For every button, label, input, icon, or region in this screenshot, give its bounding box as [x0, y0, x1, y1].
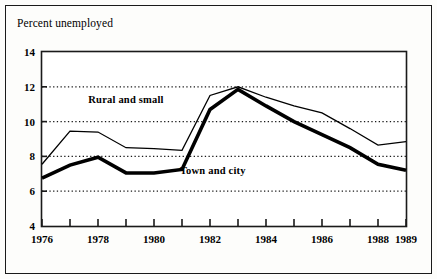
chart-plot: 468101214 197619781980198219841986198819… [0, 0, 437, 279]
x-tick-label-1976: 1976 [31, 233, 54, 245]
y-tick-label-14: 14 [24, 46, 36, 58]
plot-frame [42, 52, 407, 227]
x-tick-label-1989: 1989 [395, 233, 418, 245]
y-tick-label-8: 8 [30, 150, 36, 162]
y-tick-label-6: 6 [30, 185, 36, 197]
x-tick-label-1978: 1978 [87, 233, 110, 245]
x-tick-label-1984: 1984 [255, 233, 278, 245]
annotation-town-and-city: Town and city [180, 165, 246, 176]
y-tick-label-10: 10 [24, 116, 36, 128]
y-axis-tick-labels: 468101214 [24, 46, 36, 232]
chart-figure: Percent unemployed 468101214 19761978198… [0, 0, 437, 279]
x-tick-label-1982: 1982 [199, 233, 222, 245]
x-tick-label-1986: 1986 [311, 233, 334, 245]
y-tick-label-12: 12 [24, 81, 36, 93]
annotation-rural-and-small: Rural and small [88, 94, 163, 105]
x-tick-label-1980: 1980 [143, 233, 166, 245]
y-tick-label-4: 4 [30, 220, 36, 232]
x-axis-tick-labels: 19761978198019821984198619881989 [31, 233, 418, 245]
x-tick-label-1988: 1988 [367, 233, 390, 245]
